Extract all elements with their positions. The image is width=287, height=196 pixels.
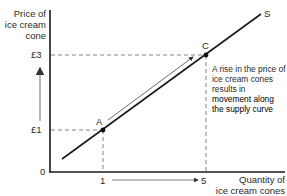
point-a-label: A bbox=[96, 116, 102, 127]
x-tick-1: 1 bbox=[100, 175, 105, 186]
y-tick-3: £3 bbox=[31, 49, 42, 60]
curve-s-label: S bbox=[264, 8, 270, 19]
x-axis-label-line1: Quantity of bbox=[165, 174, 285, 185]
y-tick-1: £1 bbox=[31, 124, 42, 135]
origin-label: 0 bbox=[40, 166, 45, 177]
y-axis-label-line1: Price of bbox=[2, 8, 46, 19]
x-axis-label: Quantity of ice cream cones bbox=[165, 174, 285, 196]
annotation-emphasis: movement along the supply curve bbox=[212, 94, 274, 114]
point-c-label: C bbox=[202, 40, 209, 51]
annotation-text: A rise in the price of ice cream cones r… bbox=[212, 64, 286, 114]
point-a-marker bbox=[101, 128, 106, 133]
movement-arrow bbox=[108, 57, 193, 120]
x-tick-5: 5 bbox=[201, 175, 206, 186]
dashed-guides bbox=[51, 55, 206, 171]
point-c-marker bbox=[204, 53, 209, 58]
y-axis-label-line3: cone bbox=[2, 30, 46, 41]
x-axis-label-line2: ice cream cones bbox=[165, 185, 285, 196]
y-axis-label: Price of ice cream cone bbox=[2, 8, 46, 41]
annotation-plain: A rise in the price of ice cream cones r… bbox=[212, 64, 286, 94]
y-axis-label-line2: ice cream bbox=[2, 19, 46, 30]
supply-curve-chart: Price of ice cream cone Quantity of ice … bbox=[0, 0, 287, 196]
